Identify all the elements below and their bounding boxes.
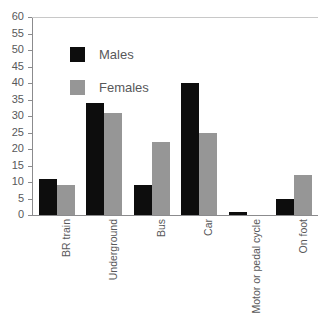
y-axis-tick-label: 5 — [18, 193, 24, 204]
legend-item-females: Females — [70, 75, 149, 99]
legend-item-males: Males — [70, 42, 149, 66]
y-axis-tick-label: 25 — [12, 127, 24, 138]
bar-females — [294, 175, 312, 215]
y-axis-tick-label: 15 — [12, 160, 24, 171]
legend-label-females: Females — [99, 80, 149, 95]
x-axis-tick-label: Bus — [156, 219, 167, 237]
y-axis-tick-label: 0 — [18, 209, 24, 220]
bar-chart: 605550454035302520151050 Males Females B… — [0, 0, 326, 327]
bar-females — [57, 185, 75, 215]
legend-label-males: Males — [99, 47, 134, 62]
x-axis: BR trainUndergroundBusCarMotor or pedal … — [33, 219, 318, 327]
y-axis-tick-label: 55 — [12, 28, 24, 39]
bar-group — [276, 17, 312, 215]
bar-females — [104, 113, 122, 215]
bar-males — [86, 103, 104, 215]
y-axis-tick-label: 60 — [12, 11, 24, 22]
bar-group — [229, 17, 265, 215]
bar-males — [229, 212, 247, 215]
y-axis-tick-label: 45 — [12, 61, 24, 72]
y-axis-tick-label: 35 — [12, 94, 24, 105]
x-axis-tick-label: Car — [203, 219, 214, 236]
legend-swatch-males-icon — [70, 47, 85, 62]
bar-males — [276, 199, 294, 216]
y-axis-tick-label: 20 — [12, 143, 24, 154]
y-axis: 605550454035302520151050 — [0, 0, 32, 228]
x-axis-tick-label: Underground — [108, 219, 119, 280]
bar-males — [181, 83, 199, 215]
x-axis-line — [32, 215, 318, 216]
bar-group — [181, 17, 217, 215]
y-axis-tick-label: 50 — [12, 44, 24, 55]
bar-males — [134, 185, 152, 215]
y-axis-tick-label: 10 — [12, 176, 24, 187]
legend-swatch-females-icon — [70, 80, 85, 95]
bar-males — [39, 179, 57, 215]
x-axis-tick-label: On foot — [298, 219, 309, 253]
chart-legend: Males Females — [70, 42, 149, 108]
bar-females — [199, 133, 217, 216]
y-axis-tick-label: 40 — [12, 77, 24, 88]
x-axis-tick-label: BR train — [61, 219, 72, 257]
x-axis-tick-label: Motor or pedal cycle — [251, 219, 262, 314]
y-axis-tick-label: 30 — [12, 110, 24, 121]
bar-females — [152, 142, 170, 215]
